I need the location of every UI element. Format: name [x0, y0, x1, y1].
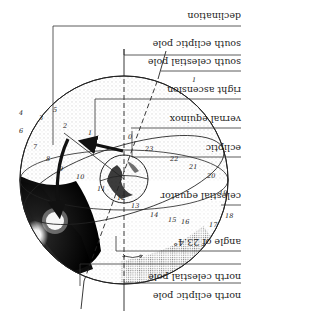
svg-text:18: 18: [225, 212, 233, 220]
label-angle: angle of 23.4°: [173, 237, 241, 248]
svg-text:23: 23: [144, 145, 153, 153]
svg-text:15: 15: [168, 216, 176, 224]
svg-text:14: 14: [150, 211, 158, 219]
svg-text:5: 5: [53, 106, 57, 114]
svg-text:6: 6: [19, 127, 23, 135]
label-north-celestial-pole: north celestial pole: [148, 272, 241, 283]
label-north-ecliptic-pole: north ecliptic pole: [153, 291, 241, 302]
svg-text:16: 16: [181, 218, 189, 226]
svg-text:8: 8: [46, 155, 50, 163]
svg-text:3: 3: [39, 114, 43, 122]
svg-text:12: 12: [117, 194, 125, 202]
svg-text:20: 20: [206, 172, 215, 180]
svg-text:17: 17: [209, 221, 218, 229]
svg-text:22: 22: [169, 155, 178, 163]
label-south-celestial-pole: south celestial pole: [147, 57, 241, 68]
label-right-ascension: right ascension: [167, 85, 241, 96]
label-vernal-equinox: vernal equinox: [169, 114, 242, 125]
svg-text:4: 4: [18, 109, 23, 117]
celestial-sphere-diagram: 1 1 2 3 4 5 6 7 8 9 10 11 12 13 14 15 16…: [0, 0, 321, 331]
diagram-canvas: 1 1 2 3 4 5 6 7 8 9 10 11 12 13 14 15 16…: [0, 0, 321, 331]
svg-text:1: 1: [88, 129, 92, 137]
label-south-ecliptic-pole: south ecliptic pole: [152, 39, 241, 50]
label-declination: declination: [187, 11, 241, 22]
svg-text:0: 0: [128, 133, 132, 141]
label-ecliptic: ecliptic: [206, 143, 241, 154]
svg-text:10: 10: [76, 173, 84, 181]
svg-text:11: 11: [97, 185, 105, 193]
label-celestial-equator: celestial equator: [160, 191, 241, 202]
svg-text:2: 2: [62, 122, 67, 130]
svg-text:13: 13: [131, 202, 139, 210]
svg-text:1: 1: [192, 76, 196, 84]
svg-text:9: 9: [59, 165, 63, 173]
svg-text:21: 21: [188, 163, 197, 171]
